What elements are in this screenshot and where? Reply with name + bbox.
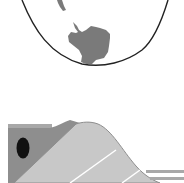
dark-oval-icon	[17, 138, 30, 159]
antarctica-icon	[68, 22, 110, 64]
diagram-figure	[0, 0, 184, 183]
right-line-2	[150, 177, 184, 180]
right-line-1	[146, 170, 184, 173]
south-america-tip-icon	[57, 0, 66, 11]
top-line-left	[8, 124, 52, 128]
globe	[22, 0, 168, 65]
wave-block	[8, 120, 184, 183]
